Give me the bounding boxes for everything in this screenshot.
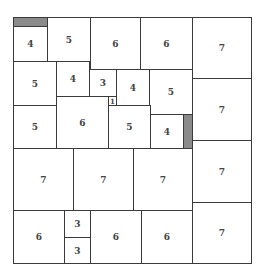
square-cell-3: 3 bbox=[64, 210, 91, 238]
square-cell-3: 3 bbox=[89, 69, 117, 97]
square-cell-6: 6 bbox=[140, 17, 193, 70]
square-cell-5: 5 bbox=[108, 105, 151, 149]
square-cell-5: 5 bbox=[13, 61, 57, 106]
square-cell-7: 7 bbox=[192, 140, 252, 203]
square-cell-7: 7 bbox=[192, 78, 252, 141]
square-cell-3: 3 bbox=[64, 237, 91, 264]
square-cell-4: 4 bbox=[13, 26, 48, 62]
square-cell-5: 5 bbox=[149, 69, 193, 115]
square-cell-5: 5 bbox=[13, 105, 57, 149]
square-cell-4: 4 bbox=[150, 114, 184, 149]
square-cell-6: 6 bbox=[141, 210, 193, 264]
square-cell-4: 4 bbox=[56, 61, 90, 97]
square-cell-6: 6 bbox=[90, 210, 142, 264]
square-cell-7: 7 bbox=[133, 148, 193, 211]
square-cell-6: 6 bbox=[56, 96, 109, 149]
square-cell-7: 7 bbox=[192, 202, 252, 264]
square-cell-7: 7 bbox=[13, 148, 74, 211]
square-cell-7: 7 bbox=[73, 148, 134, 211]
square-cell-6: 6 bbox=[13, 210, 65, 264]
square-cell-6: 6 bbox=[90, 17, 141, 70]
square-cell-7: 7 bbox=[192, 17, 252, 79]
square-cell-4: 4 bbox=[116, 69, 150, 106]
square-cell-5: 5 bbox=[47, 17, 91, 62]
square-packing-diagram: 45667543457561547777633667 bbox=[0, 0, 268, 280]
